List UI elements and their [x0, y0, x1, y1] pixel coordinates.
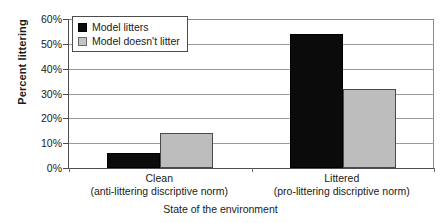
y-axis-tick-label: 30% — [20, 89, 62, 100]
y-axis-tick-label: 20% — [20, 113, 62, 124]
x-axis-title: State of the environment — [0, 203, 441, 215]
category-sublabel: (pro-littering discriptive norm) — [232, 185, 441, 198]
y-axis-tick-mark — [63, 44, 68, 45]
y-axis-tick-label: 10% — [20, 138, 62, 149]
chart-legend: Model litters Model doesn't litter — [72, 16, 188, 52]
y-axis-tick-label: 50% — [20, 39, 62, 50]
legend-item-label: Model doesn't litter — [92, 35, 180, 47]
gray-square-icon — [78, 37, 87, 46]
bar — [343, 89, 396, 168]
legend-item: Model doesn't litter — [78, 34, 180, 48]
bar — [107, 153, 160, 168]
x-axis-category-label: Littered(pro-littering discriptive norm) — [232, 172, 441, 198]
legend-item: Model litters — [78, 20, 180, 34]
bar-chart: Percent littering 0%10%20%30%40%50%60% S… — [0, 0, 441, 223]
bar — [290, 34, 343, 168]
gridline — [69, 69, 434, 70]
y-axis-tick-mark — [63, 69, 68, 70]
legend-item-label: Model litters — [92, 21, 149, 33]
y-axis-tick-mark — [63, 94, 68, 95]
black-square-icon — [78, 23, 87, 32]
y-axis-tick-mark — [63, 19, 68, 20]
category-name: Littered — [232, 172, 441, 185]
bar — [160, 133, 213, 168]
y-axis-tick-labels: 0%10%20%30%40%50%60% — [20, 12, 62, 168]
y-axis-tick-mark — [63, 168, 68, 169]
y-axis-tick-label: 60% — [20, 14, 62, 25]
y-axis-tick-mark — [63, 143, 68, 144]
y-axis-tick-mark — [63, 118, 68, 119]
y-axis-tick-label: 40% — [20, 64, 62, 75]
